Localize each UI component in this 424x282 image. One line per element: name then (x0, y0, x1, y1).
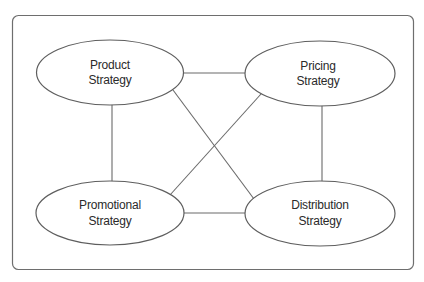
node-pricing-strategy: Pricing Strategy (245, 41, 395, 106)
node-distribution-strategy: Distribution Strategy (245, 181, 395, 246)
node-label-line2: Strategy (88, 214, 131, 228)
node-ellipse (36, 181, 184, 245)
node-label-line2: Strategy (88, 73, 131, 87)
marketing-mix-diagram: Product Strategy Pricing Strategy Promot… (0, 0, 424, 282)
edge-product-distribution (173, 90, 254, 199)
node-label-line2: Strategy (298, 214, 341, 228)
node-label-line1: Promotional (79, 198, 141, 212)
node-label-line1: Product (90, 58, 131, 72)
node-promotional-strategy: Promotional Strategy (36, 181, 184, 245)
edge-pricing-promotional (170, 94, 261, 195)
node-label-line2: Strategy (296, 74, 339, 88)
node-label-line1: Distribution (291, 198, 349, 212)
node-product-strategy: Product Strategy (37, 40, 184, 105)
node-label-line1: Pricing (300, 59, 335, 73)
